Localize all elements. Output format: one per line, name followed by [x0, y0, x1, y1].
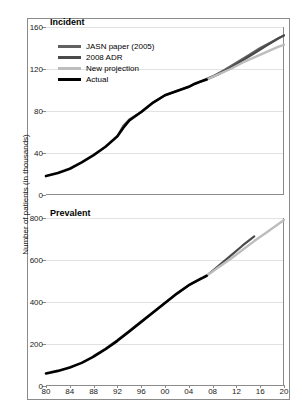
y-axis-title: Number of patients (in thousands) [21, 90, 30, 300]
x-tick-label: 16 [256, 387, 265, 396]
legend-label: Actual [86, 74, 108, 85]
series-line [46, 276, 207, 374]
legend-item: New projection [58, 63, 154, 74]
plot-area-incident: Incident 04080120160 JASN paper (2005)20… [46, 27, 284, 195]
panel-title-incident: Incident [50, 17, 85, 27]
legend-label: JASN paper (2005) [86, 41, 154, 52]
y-tick-label: 120 [30, 65, 43, 74]
legend-label: New projection [86, 63, 139, 74]
x-tick-label: 96 [137, 387, 146, 396]
series-line [207, 45, 284, 80]
series-lines-prevalent [46, 218, 284, 386]
panel-title-prevalent: Prevalent [50, 208, 91, 218]
x-tick-label: 92 [113, 387, 122, 396]
y-tick-label: 0 [39, 191, 43, 200]
x-tick-label: 08 [208, 387, 217, 396]
figure-canvas: Number of patients (in thousands) Incide… [0, 0, 302, 415]
legend-swatch-4 [58, 78, 81, 81]
legend-item: JASN paper (2005) [58, 41, 154, 52]
x-tick-label: 12 [232, 387, 241, 396]
legend-label: 2008 ADR [86, 52, 122, 63]
x-tick-label: 80 [42, 387, 51, 396]
legend-swatch-1 [58, 45, 81, 48]
x-tick-label: 20 [280, 387, 289, 396]
y-tick-label: 200 [30, 340, 43, 349]
y-tick-label: 400 [30, 298, 43, 307]
legend-item: 2008 ADR [58, 52, 154, 63]
series-line [207, 220, 284, 276]
legend-swatch-2 [58, 56, 81, 59]
x-tick-label: 04 [184, 387, 193, 396]
y-tick-label: 600 [30, 256, 43, 265]
series-line [46, 80, 207, 177]
x-tick-label: 84 [65, 387, 74, 396]
y-tick-label: 160 [30, 23, 43, 32]
legend: JASN paper (2005)2008 ADRNew projectionA… [58, 41, 154, 85]
y-tick-label: 40 [34, 149, 43, 158]
legend-swatch-3 [58, 67, 81, 70]
y-tick-label: 80 [34, 107, 43, 116]
x-tick-label: 00 [161, 387, 170, 396]
y-tick-label: 800 [30, 214, 43, 223]
plot-area-prevalent: Prevalent 0200400600800 8084889296000408… [46, 218, 284, 386]
legend-item: Actual [58, 74, 154, 85]
x-tick-label: 88 [89, 387, 98, 396]
